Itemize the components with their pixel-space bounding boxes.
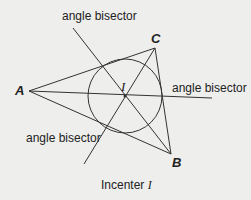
incenter-label-i: I <box>121 79 125 95</box>
caption-text: Incenter <box>101 178 148 192</box>
bisector-label-right: angle bisector <box>172 81 247 95</box>
bisector-label-top: angle bisector <box>62 9 137 23</box>
caption: Incenter I <box>101 178 152 193</box>
vertex-label-b: B <box>172 155 181 170</box>
vertex-label-c: C <box>151 31 160 46</box>
incenter-diagram <box>0 0 251 200</box>
vertex-label-a: A <box>15 83 24 98</box>
bisector-label-left: angle bisector <box>26 131 101 145</box>
caption-variable: I <box>148 178 152 192</box>
bisector-from-c <box>84 48 155 164</box>
